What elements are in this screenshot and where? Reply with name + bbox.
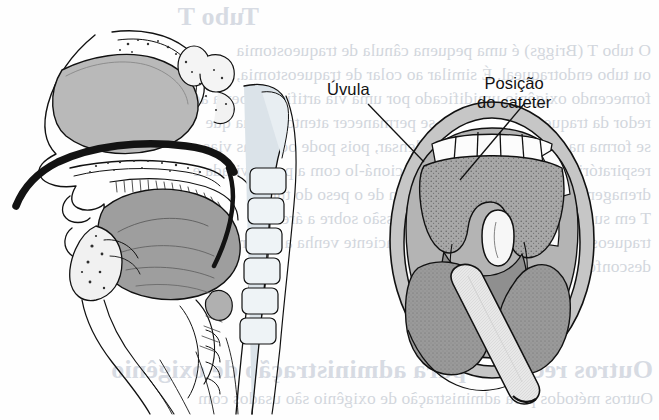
epiglottis — [205, 290, 232, 320]
sagittal-head-illustration — [0, 0, 659, 420]
nasal-cavity — [53, 54, 199, 153]
cervical-vertebrae — [240, 85, 289, 415]
figure-page: Tubo TOutros recursos para administração… — [0, 0, 659, 420]
neck-anterior — [82, 300, 150, 414]
upper-lip — [63, 196, 90, 223]
uvula-leader-line — [368, 104, 424, 162]
label-uvula: Úvula — [327, 80, 370, 99]
open-mouth-illustration — [390, 102, 594, 404]
label-catheter-position: Posição do cateter — [477, 74, 551, 113]
tongue — [98, 189, 241, 299]
figure-artwork — [0, 0, 659, 420]
mandible — [70, 226, 122, 301]
